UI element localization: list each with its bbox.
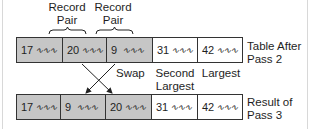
- brace-icon: [96, 27, 133, 34]
- diagram-lines: [0, 0, 312, 129]
- swap-arrow-icon: [82, 64, 112, 93]
- swap-arrow-icon: [86, 64, 115, 93]
- brace-icon: [49, 27, 86, 34]
